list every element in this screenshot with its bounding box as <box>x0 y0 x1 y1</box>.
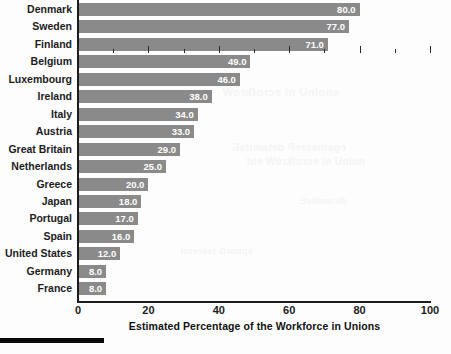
x-axis-major-tick <box>430 46 431 53</box>
category-label: Finland <box>0 38 72 51</box>
bottom-black-rule <box>0 338 104 343</box>
x-axis-tick-label: 40 <box>199 304 239 316</box>
bar-row: Luxembourg46.0 <box>0 73 451 86</box>
category-label: Italy <box>0 108 72 121</box>
category-label: Great Britain <box>0 143 72 156</box>
x-axis-major-tick <box>219 46 220 53</box>
bar-row: Great Britain29.0 <box>0 143 451 156</box>
x-axis-minor-tick <box>184 49 185 53</box>
x-axis-major-tick <box>360 46 361 53</box>
category-label: Luxembourg <box>0 73 72 86</box>
bar-row: Germany8.0 <box>0 265 451 278</box>
category-label: Spain <box>0 230 72 243</box>
category-label: Greece <box>0 178 72 191</box>
bar-value-label: 8.0 <box>78 265 102 278</box>
bar-row: Austria33.0 <box>0 125 451 138</box>
bar-row: Denmark80.0 <box>0 3 451 16</box>
bar-value-label: 12.0 <box>78 247 116 260</box>
bar-row: Belgium49.0 <box>0 55 451 68</box>
x-axis-tick-label: 0 <box>58 304 98 316</box>
bar-value-label: 29.0 <box>78 143 176 156</box>
bar-row: France8.0 <box>0 282 451 295</box>
x-axis-minor-tick <box>254 49 255 53</box>
x-axis-major-tick <box>148 46 149 53</box>
bar-value-label: 49.0 <box>78 55 246 68</box>
category-label: United States <box>0 247 72 260</box>
bar-row: Greece20.0 <box>0 178 451 191</box>
bar-value-label: 20.0 <box>78 178 144 191</box>
horizontal-bar-chart: Denmark80.0Sweden77.0Finland71.0Belgium4… <box>0 0 451 354</box>
x-axis-tick-label: 100 <box>410 304 450 316</box>
x-axis-title: Estimated Percentage of the Workforce in… <box>78 320 431 332</box>
category-label: Belgium <box>0 55 72 68</box>
bar-value-label: 38.0 <box>78 90 208 103</box>
bar-value-label: 77.0 <box>78 20 345 33</box>
bar-value-label: 80.0 <box>78 3 356 16</box>
category-label: Austria <box>0 125 72 138</box>
bar-row: Netherlands25.0 <box>0 160 451 173</box>
category-label: Germany <box>0 265 72 278</box>
x-axis-minor-tick <box>324 49 325 53</box>
category-label: Portugal <box>0 212 72 225</box>
category-label: France <box>0 282 72 295</box>
category-label: Ireland <box>0 90 72 103</box>
bar-row: Portugal17.0 <box>0 212 451 225</box>
x-axis-major-tick <box>289 46 290 53</box>
bar-value-label: 8.0 <box>78 282 102 295</box>
bar-row: Finland71.0 <box>0 38 451 51</box>
bar-value-label: 17.0 <box>78 212 134 225</box>
x-axis-tick-label: 60 <box>269 304 309 316</box>
category-label: Japan <box>0 195 72 208</box>
bar-value-label: 46.0 <box>78 73 236 86</box>
category-label: Netherlands <box>0 160 72 173</box>
x-axis-line <box>77 301 431 303</box>
x-axis-tick-label: 80 <box>340 304 380 316</box>
bar-value-label: 33.0 <box>78 125 190 138</box>
bar-value-label: 71.0 <box>78 38 324 51</box>
x-axis-major-tick <box>78 46 79 53</box>
bar-row: Sweden77.0 <box>0 20 451 33</box>
bar-row: Ireland38.0 <box>0 90 451 103</box>
bar-value-label: 34.0 <box>78 108 194 121</box>
bar-value-label: 16.0 <box>78 230 130 243</box>
bar-row: United States12.0 <box>0 247 451 260</box>
category-label: Denmark <box>0 3 72 16</box>
category-label: Sweden <box>0 20 72 33</box>
bar-row: Italy34.0 <box>0 108 451 121</box>
bar-value-label: 25.0 <box>78 160 162 173</box>
bar-value-label: 18.0 <box>78 195 137 208</box>
x-axis-tick-label: 20 <box>128 304 168 316</box>
bar-row: Spain16.0 <box>0 230 451 243</box>
bar-row: Japan18.0 <box>0 195 451 208</box>
x-axis-minor-tick <box>113 49 114 53</box>
x-axis-minor-tick <box>395 49 396 53</box>
